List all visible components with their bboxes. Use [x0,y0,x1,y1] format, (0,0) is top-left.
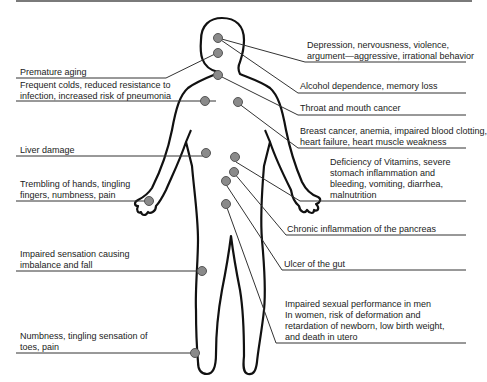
label-impaired-sensation: Impaired sensation causingimbalance and … [20,249,130,271]
label-sexual-performance: Impaired sexual performance in menIn wom… [285,299,445,343]
label-vitamins: Deficiency of Vitamins, severestomach in… [330,157,450,201]
label-line: Trembling of hands, tingling [20,179,130,190]
dot-reproductive [222,200,231,209]
label-line: fingers, numbness, pain [20,190,130,201]
dot-hand [145,197,154,206]
label-line: argument—aggressive, irrational behavior [307,51,474,62]
dot-gut [222,177,231,186]
label-numbness-toes: Numbness, tingling sensation oftoes, pai… [20,331,148,353]
label-line: Frequent colds, reduced resistance to [20,80,171,91]
label-line: imbalance and fall [20,260,130,271]
label-line: Breast cancer, anemia, impaired blood cl… [300,126,487,137]
dot-breast [234,98,243,107]
label-line: Deficiency of Vitamins, severe [330,157,450,168]
label-line: stomach inflammation and [330,168,450,179]
label-line: Numbness, tingling sensation of [20,331,148,342]
label-line: heart failure, heart muscle weakness [300,137,487,148]
label-liver-damage: Liver damage [20,145,75,156]
dot-lung [201,97,210,106]
label-line: retardation of newborn, low birth weight… [285,321,445,332]
label-line: bleeding, vomiting, diarrhea, [330,179,450,190]
label-line: In women, risk of deformation and [285,310,445,321]
dot-liver [202,149,211,158]
label-breast-cancer: Breast cancer, anemia, impaired blood cl… [300,126,487,148]
label-line: toes, pain [20,342,148,353]
label-line: Impaired sensation causing [20,249,130,260]
label-frequent-colds: Frequent colds, reduced resistance toinf… [20,80,171,102]
dot-pancreas [230,168,239,177]
dot-knee [198,267,207,276]
label-throat-cancer: Throat and mouth cancer [300,103,401,114]
dot-face [214,49,223,58]
label-line: Impaired sexual performance in men [285,299,445,310]
label-trembling: Trembling of hands, tinglingfingers, num… [20,179,130,201]
label-alcohol-dependence: Alcohol dependence, memory loss [300,81,438,92]
label-premature-aging: Premature aging [20,67,87,78]
label-line: malnutrition [330,190,450,201]
label-depression: Depression, nervousness, violence,argume… [307,40,474,62]
label-line: and death in utero [285,332,445,343]
dot-brain [214,34,223,43]
label-ulcer: Ulcer of the gut [284,259,345,270]
label-line: infection, increased risk of pneumonia [20,91,171,102]
dot-throat [214,71,223,80]
label-pancreas: Chronic inflammation of the pancreas [287,224,436,235]
dot-stomach [231,153,240,162]
dot-foot [191,349,200,358]
label-line: Depression, nervousness, violence, [307,40,474,51]
